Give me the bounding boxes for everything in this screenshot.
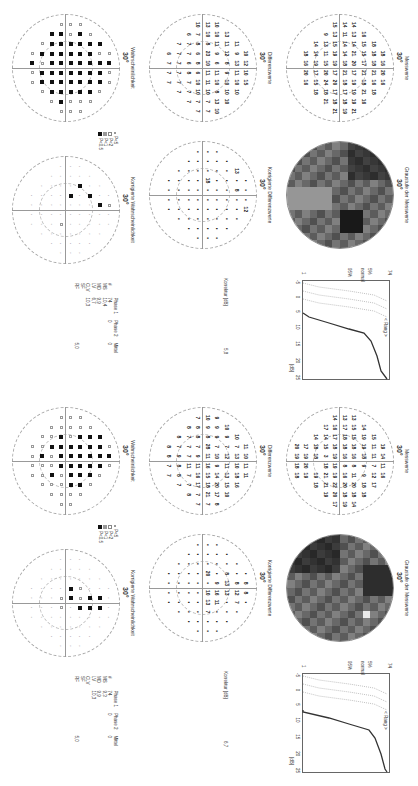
p5-symbol-icon <box>115 525 117 527</box>
grayscale-cell <box>287 535 295 543</box>
grayscale-cell <box>340 233 348 241</box>
empty-cell <box>28 248 38 258</box>
bottom-rank-value: 1 <box>301 665 306 668</box>
grid-value: 9 <box>232 49 242 59</box>
grid-value: 20 <box>350 480 360 490</box>
grid-value: 8 <box>222 58 232 68</box>
grid-value: • <box>193 607 203 617</box>
p5-symbol-icon <box>76 423 86 433</box>
grid-value: 8 <box>203 39 213 49</box>
grayscale-cell <box>378 218 386 226</box>
grid-value: 16 <box>302 78 312 88</box>
p05-symbol-icon <box>76 461 86 471</box>
grid-value <box>155 68 165 78</box>
empty-cell <box>104 480 114 490</box>
legend-item: P<2 <box>108 525 113 543</box>
empty-cell <box>104 239 114 249</box>
grayscale-cell <box>302 218 310 226</box>
empty-cell <box>95 30 105 40</box>
grayscale-cell <box>310 225 318 233</box>
grayscale-cell <box>302 558 310 566</box>
empty-cell <box>104 471 114 481</box>
grayscale-cell <box>287 225 295 233</box>
grid-value <box>165 559 175 569</box>
grayscale-cell <box>355 558 363 566</box>
grayscale-cell <box>287 588 295 596</box>
grid-value: • <box>193 185 203 195</box>
grayscale-cell <box>317 596 325 604</box>
grid-value <box>174 423 184 433</box>
grid-value: 19 <box>340 106 350 116</box>
normal-dot-icon: · <box>76 622 86 632</box>
grid-value <box>378 413 388 423</box>
grid-value: 28 <box>203 442 213 452</box>
grayscale-cell <box>340 626 348 634</box>
p05-symbol-icon <box>66 58 76 68</box>
grid-value <box>155 626 165 636</box>
degree-label: 30° <box>396 52 403 63</box>
p05-symbol-icon <box>85 442 95 452</box>
empty-cell <box>28 181 38 191</box>
normal-dot-icon: · <box>85 220 95 230</box>
empty-cell <box>47 248 57 258</box>
grid-value: 8 <box>184 423 194 433</box>
empty-cell <box>18 613 28 623</box>
grid-value: 11 <box>213 598 223 608</box>
normal-dot-icon: · <box>104 584 114 594</box>
grayscale-cell <box>325 550 333 558</box>
grayscale-cell <box>295 543 303 551</box>
grid-value: 13 <box>222 588 232 598</box>
grid-value <box>292 97 302 107</box>
grid-value: 13 <box>222 578 232 588</box>
grid-value: 19 <box>359 432 369 442</box>
grayscale-cell <box>287 187 295 195</box>
normal-dot-icon: · <box>85 172 95 182</box>
normal-dot-icon: · <box>66 622 76 632</box>
grid-value <box>321 20 331 30</box>
grid-value: • <box>193 195 203 205</box>
normal-dot-icon: · <box>95 613 105 623</box>
grid-value: 21 <box>321 97 331 107</box>
grayscale-cell <box>340 165 348 173</box>
grayscale-cell <box>355 180 363 188</box>
grid-value <box>302 480 312 490</box>
grid-value: • <box>193 578 203 588</box>
grayscale-cell <box>332 573 340 581</box>
grid-value: • <box>203 205 213 215</box>
grayscale-cell <box>310 603 318 611</box>
grayscale-cell <box>302 157 310 165</box>
p05-symbol-icon <box>76 49 86 59</box>
grayscale-cell <box>287 195 295 203</box>
p5-symbol-icon <box>66 490 76 500</box>
grayscale-cell <box>310 172 318 180</box>
grid-value: • <box>213 157 223 167</box>
grid-value: 7 <box>193 97 203 107</box>
grid-value: 17 <box>340 423 350 433</box>
grayscale-cell <box>325 180 333 188</box>
x-tick: 25 <box>295 768 300 773</box>
grid-value: • <box>174 559 184 569</box>
grayscale-cell <box>370 233 378 241</box>
grid-value <box>292 58 302 68</box>
normal-dot-icon: · <box>104 603 114 613</box>
empty-cell <box>18 555 28 565</box>
p5-symbol-icon <box>56 480 66 490</box>
empty-cell <box>18 461 28 471</box>
p05-symbol-icon <box>56 58 66 68</box>
p05-symbol-icon <box>99 132 103 136</box>
grayscale-cell <box>385 535 393 543</box>
grayscale-cell <box>310 588 318 596</box>
grid-value: • <box>241 569 251 579</box>
normal-dot-icon: · <box>66 239 76 249</box>
korrigierte-differenzwerte-title: Korrigierte Differenzwerte <box>267 528 273 648</box>
normal-dot-icon: · <box>76 555 86 565</box>
grayscale-cell <box>355 633 363 641</box>
empty-cell <box>28 97 38 107</box>
stats-cell <box>91 317 97 340</box>
grayscale-cell <box>295 218 303 226</box>
p05-symbol-icon <box>85 432 95 442</box>
grid-value: 16 <box>193 471 203 481</box>
normal-dot-icon: · <box>56 641 66 651</box>
grid-value: 7 <box>174 87 184 97</box>
empty-cell <box>28 622 38 632</box>
